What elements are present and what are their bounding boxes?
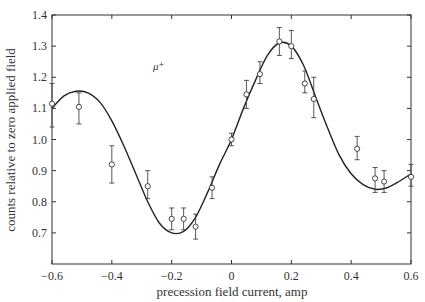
y-tick-label: 0.8 — [32, 195, 47, 209]
data-marker — [381, 179, 386, 184]
y-axis-ticks: 0.70.80.91.01.11.21.31.4 — [32, 8, 411, 240]
data-marker — [408, 174, 413, 179]
x-tick-label: 0.4 — [344, 269, 359, 283]
data-marker — [244, 92, 249, 97]
data-point — [193, 214, 198, 239]
y-tick-label: 1.0 — [32, 133, 47, 147]
data-marker — [229, 137, 234, 142]
data-marker — [169, 216, 174, 221]
data-marker — [49, 101, 54, 106]
y-tick-label: 0.7 — [32, 226, 47, 240]
data-point — [76, 93, 81, 124]
x-tick-label: 0.2 — [284, 269, 299, 283]
data-marker — [145, 184, 150, 189]
y-axis-label: counts relative to zero applied field — [3, 48, 18, 232]
x-tick-label: −0.6 — [41, 269, 63, 283]
data-point — [408, 164, 413, 186]
x-axis-ticks: −0.6−0.4−0.200.20.40.6 — [41, 15, 418, 283]
data-point — [49, 83, 54, 127]
data-point — [109, 146, 114, 183]
data-marker — [373, 176, 378, 181]
chart: −0.6−0.4−0.200.20.40.6 0.70.80.91.01.11.… — [0, 0, 425, 302]
data-point — [169, 208, 174, 230]
data-marker — [109, 162, 114, 167]
y-tick-label: 1.3 — [32, 39, 47, 53]
data-marker — [289, 44, 294, 49]
data-marker — [209, 185, 214, 190]
data-point — [181, 208, 186, 230]
y-tick-label: 1.4 — [32, 8, 47, 22]
x-axis-label: precession field current, amp — [157, 284, 308, 299]
data-marker — [76, 104, 81, 109]
data-marker — [193, 224, 198, 229]
data-marker — [181, 216, 186, 221]
muon-annotation: μ⁺ — [152, 60, 165, 72]
data-marker — [355, 146, 360, 151]
data-point — [277, 27, 282, 55]
data-marker — [302, 81, 307, 86]
data-marker — [277, 39, 282, 44]
x-tick-label: −0.4 — [101, 269, 123, 283]
data-points — [49, 27, 413, 239]
y-tick-label: 0.9 — [32, 164, 47, 178]
x-tick-label: 0.6 — [404, 269, 419, 283]
data-point — [355, 136, 360, 159]
y-tick-label: 1.1 — [32, 101, 47, 115]
y-tick-label: 1.2 — [32, 70, 47, 84]
data-marker — [311, 96, 316, 101]
data-marker — [257, 72, 262, 77]
x-tick-label: −0.2 — [161, 269, 183, 283]
data-point — [145, 171, 150, 199]
data-point — [209, 177, 214, 199]
data-point — [289, 31, 294, 59]
data-point — [311, 77, 316, 117]
x-tick-label: 0 — [229, 269, 235, 283]
